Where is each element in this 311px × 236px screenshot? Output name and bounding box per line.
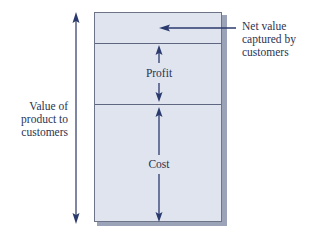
net-value-label-line-1: Net value <box>242 20 296 33</box>
cost-down-arrow-icon <box>156 174 163 222</box>
profit-label: Profit <box>146 67 172 80</box>
profit-down-arrow-icon <box>156 83 163 102</box>
net-value-label: Net value captured by customers <box>242 20 296 59</box>
total-value-double-arrow-icon <box>73 12 80 224</box>
value-decomposition-diagram: Net value captured by customers Profit C… <box>0 0 311 236</box>
profit-up-arrow-icon <box>156 45 163 63</box>
net-value-label-line-3: customers <box>242 46 296 59</box>
total-value-label-line-1: Value of <box>10 100 68 113</box>
net-value-label-line-2: captured by <box>242 33 296 46</box>
total-value-label-line-2: product to <box>10 113 68 126</box>
total-value-label-line-3: customers <box>10 126 68 139</box>
cost-up-arrow-icon <box>156 107 163 155</box>
total-value-label: Value of product to customers <box>10 100 68 139</box>
net-value-arrow-icon <box>159 25 236 32</box>
cost-label: Cost <box>148 158 169 171</box>
